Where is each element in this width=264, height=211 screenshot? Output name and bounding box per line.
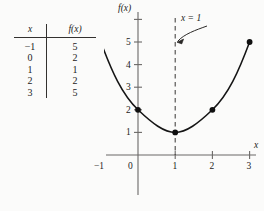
origin-label: 0	[128, 161, 133, 171]
column-header-fx: f(x)	[47, 24, 97, 38]
table-row: 1 1	[14, 64, 96, 75]
cell-x: −1	[14, 38, 47, 53]
cell-x: 0	[14, 52, 47, 63]
values-table: x f(x) −1 5 0 2 1 1 2 2	[14, 24, 96, 98]
data-point-marker	[210, 107, 216, 113]
table-row: 3 5	[14, 87, 96, 98]
table-body: −1 5 0 2 1 1 2 2 3 5	[14, 38, 96, 99]
cell-fx: 5	[47, 38, 97, 53]
table-row: 2 2	[14, 75, 96, 86]
x-tick-label-1: 1	[173, 161, 178, 171]
x-axis-label: x	[254, 140, 258, 150]
y-tick-label-2: 2	[126, 105, 131, 115]
cell-fx: 1	[47, 64, 97, 75]
y-tick-label-3: 3	[126, 82, 131, 92]
y-tick-label-1: 1	[126, 127, 131, 137]
table-of-values: x f(x) −1 5 0 2 1 1 2 2	[14, 24, 98, 98]
data-point-marker	[135, 107, 141, 113]
cell-fx: 2	[47, 75, 97, 86]
x-tick-label-neg1: −1	[94, 161, 104, 171]
cell-x: 2	[14, 75, 47, 86]
x-tick-label-3: 3	[247, 161, 252, 171]
data-point-marker	[172, 130, 178, 136]
graph-panel: f(x) x 1 2 3 4 5 −1 0 1 2 3 x = 1	[104, 0, 264, 211]
axis-of-symmetry-annotation: x = 1	[181, 13, 201, 23]
cell-x: 3	[14, 87, 47, 98]
data-point-marker	[247, 39, 253, 45]
y-axis-label: f(x)	[118, 3, 131, 13]
y-tick-label-4: 4	[126, 60, 131, 70]
annotation-arrow-head-icon	[177, 39, 184, 44]
cell-fx: 2	[47, 52, 97, 63]
figure-parabola-with-table: x f(x) −1 5 0 2 1 1 2 2	[0, 0, 264, 211]
x-tick-label-2: 2	[210, 161, 215, 171]
cell-x: 1	[14, 64, 47, 75]
table-row: 0 2	[14, 52, 96, 63]
table-row: −1 5	[14, 38, 96, 53]
annotation-arrow-curve	[178, 26, 208, 42]
cell-fx: 5	[47, 87, 97, 98]
y-tick-label-5: 5	[126, 37, 131, 47]
table-header-row: x f(x)	[14, 24, 96, 38]
table-head: x f(x)	[14, 24, 96, 38]
column-header-x: x	[14, 24, 47, 38]
